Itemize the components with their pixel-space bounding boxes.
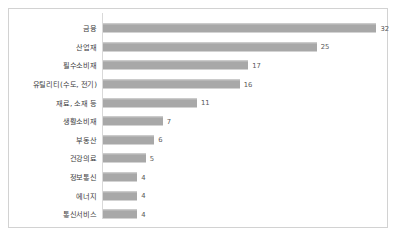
bar-track: 5 [103, 154, 383, 163]
bar-fill [103, 80, 240, 89]
bar-fill [103, 24, 376, 33]
bar-value-label: 5 [150, 154, 154, 162]
bar-row: 부동산 6 [9, 131, 387, 150]
bar-fill [103, 98, 197, 107]
bar-value-label: 4 [141, 210, 145, 218]
bar-value-label: 25 [321, 43, 330, 51]
bar-value-label: 4 [141, 192, 145, 200]
bar-fill [103, 61, 248, 70]
bar-row: 금융 32 [9, 19, 387, 38]
bar-value-label: 32 [380, 24, 389, 32]
bar-value-label: 4 [141, 173, 145, 181]
bar-category-label: 생활소비재 [0, 117, 97, 126]
bar-track: 11 [103, 98, 383, 107]
bar-row: 유틸리티(수도, 전기) 16 [9, 75, 387, 94]
bar-track: 4 [103, 191, 383, 200]
bar-track: 17 [103, 61, 383, 70]
plot-area: 금융 32 산업재 25 필수소비재 17 유틸리티(수도, 전기) [9, 9, 387, 227]
bar-category-label: 필수소비재 [0, 61, 97, 70]
bar-category-label: 금융 [0, 24, 97, 33]
bar-row: 통신서비스 4 [9, 205, 387, 224]
bar-category-label: 재료, 소재 등 [0, 98, 97, 107]
bar-category-label: 에너지 [0, 191, 97, 200]
bar-row: 에너지 4 [9, 186, 387, 205]
bar-category-label: 통신서비스 [0, 210, 97, 219]
bar-track: 32 [103, 24, 383, 33]
bar-track: 7 [103, 117, 383, 126]
bar-track: 25 [103, 42, 383, 51]
bar-fill [103, 191, 137, 200]
bar-row: 정보통신 4 [9, 168, 387, 187]
bar-row: 생활소비재 7 [9, 112, 387, 131]
bar-fill [103, 154, 146, 163]
bar-track: 6 [103, 135, 383, 144]
bar-value-label: 11 [201, 99, 210, 107]
bar-fill [103, 42, 317, 51]
bar-track: 16 [103, 80, 383, 89]
bar-row: 건강의료 5 [9, 149, 387, 168]
bar-track: 4 [103, 210, 383, 219]
bar-category-label: 산업재 [0, 42, 97, 51]
bar-row: 재료, 소재 등 11 [9, 93, 387, 112]
bar-fill [103, 210, 137, 219]
bar-category-label: 건강의료 [0, 154, 97, 163]
bar-category-label: 정보통신 [0, 173, 97, 182]
bar-row: 필수소비재 17 [9, 56, 387, 75]
bar-value-label: 6 [158, 136, 162, 144]
bar-fill [103, 173, 137, 182]
chart-frame: 금융 32 산업재 25 필수소비재 17 유틸리티(수도, 전기) [8, 8, 388, 228]
bar-row: 산업재 25 [9, 38, 387, 57]
bar-category-label: 부동산 [0, 135, 97, 144]
bar-category-label: 유틸리티(수도, 전기) [0, 80, 97, 89]
bar-value-label: 16 [244, 80, 253, 88]
bar-value-label: 7 [167, 117, 171, 125]
bar-value-label: 17 [252, 61, 261, 69]
bar-fill [103, 135, 154, 144]
bar-track: 4 [103, 173, 383, 182]
bar-fill [103, 117, 163, 126]
